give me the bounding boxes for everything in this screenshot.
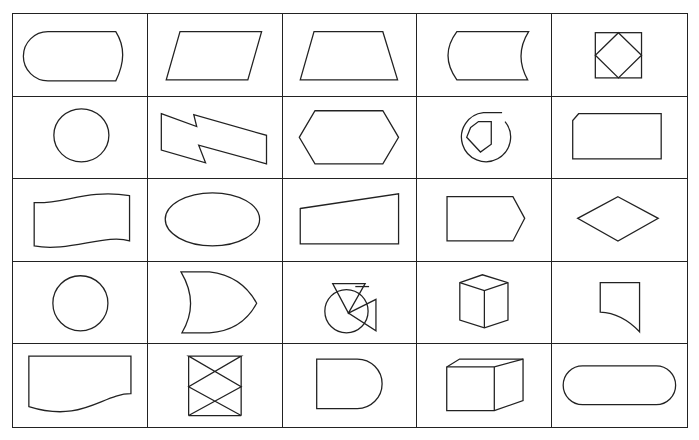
- stored-data-icon: [417, 14, 551, 96]
- curved-bottom-quad-icon: [552, 262, 687, 344]
- manual-input-icon: [283, 179, 417, 261]
- diamond-icon: [552, 179, 687, 261]
- cell-circle-2: circle: [13, 262, 148, 345]
- collate-hourglass-icon: [148, 344, 282, 427]
- cut-corner-rectangle-icon: [552, 97, 687, 179]
- circle-triangles-icon: [283, 262, 417, 344]
- cell-document: document: [13, 344, 148, 427]
- wavy-banner-icon: [13, 179, 147, 261]
- circle-icon: [13, 262, 147, 344]
- terminal-shape-icon: [13, 14, 147, 96]
- or-gate-icon: [148, 262, 282, 344]
- hexagon-icon: [283, 97, 417, 179]
- cell-stored-data: stored-data: [417, 14, 552, 97]
- delay-shape-icon: [283, 344, 417, 427]
- cell-terminal: terminal-stadium-flat-right: [13, 14, 148, 97]
- cell-ellipse: ellipse: [148, 179, 283, 262]
- cell-square-diamond: square-with-inscribed-diamond: [552, 14, 687, 97]
- cell-circle-pentagon: circle-with-pentagon: [417, 97, 552, 180]
- cell-curved-quad: curved-bottom-quad: [552, 262, 687, 345]
- circle-pentagon-icon: [417, 97, 551, 179]
- cell-or-gate: or-gate-shield: [148, 262, 283, 345]
- cell-lightning: lightning-bolt: [148, 97, 283, 180]
- square-diamond-icon: [552, 14, 687, 96]
- cell-diamond: diamond: [552, 179, 687, 262]
- lightning-bolt-icon: [148, 97, 282, 179]
- shape-grid: terminal-stadium-flat-right parallelogra…: [12, 13, 688, 428]
- cell-cube: cube: [417, 262, 552, 345]
- cell-pentagon-arrow: pentagon-arrow: [417, 179, 552, 262]
- cell-trapezoid: trapezoid: [283, 14, 418, 97]
- stadium-icon: [552, 344, 687, 427]
- cell-manual-input: manual-input: [283, 179, 418, 262]
- cell-cut-corner-rect: cut-corner-rectangle: [552, 97, 687, 180]
- circle-icon: [13, 97, 147, 179]
- cell-parallelogram: parallelogram: [148, 14, 283, 97]
- document-icon: [13, 344, 147, 427]
- cube-icon: [417, 262, 551, 344]
- cell-wavy-banner: wavy-banner: [13, 179, 148, 262]
- cell-stadium: stadium: [552, 344, 687, 427]
- cell-hexagon: hexagon: [283, 97, 418, 180]
- trapezoid-icon: [283, 14, 417, 96]
- ellipse-icon: [148, 179, 282, 261]
- cell-delay: delay-d-shape: [283, 344, 418, 427]
- cell-circle-triangles: circle-with-triangles: [283, 262, 418, 345]
- cell-collate: collate-hourglass: [148, 344, 283, 427]
- cell-circle: circle: [13, 97, 148, 180]
- pentagon-arrow-icon: [417, 179, 551, 261]
- parallelogram-icon: [148, 14, 282, 96]
- box-3d-icon: [417, 344, 551, 427]
- cell-box-3d: rectangular-box-3d: [417, 344, 552, 427]
